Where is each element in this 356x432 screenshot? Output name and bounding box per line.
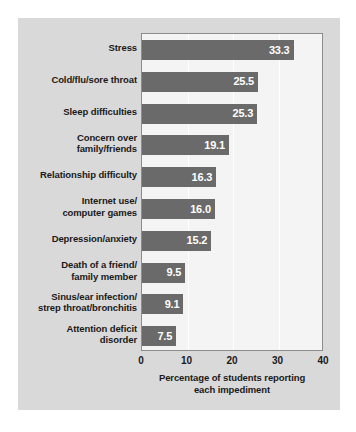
category-label-line: Attention deficit (18, 323, 137, 335)
category-label-line: computer games (18, 207, 137, 219)
category-label-line: disorder (18, 334, 137, 346)
bar[interactable]: 9.5 (142, 263, 185, 283)
category-label-line: Relationship difficulty (18, 169, 137, 181)
bar[interactable]: 33.3 (142, 40, 294, 60)
bar-value-label: 25.3 (233, 108, 258, 119)
bar-value-label: 33.3 (269, 45, 294, 56)
category-label: Attention deficitdisorder (18, 323, 137, 346)
category-label-line: family/friends (18, 143, 137, 155)
bar[interactable]: 15.2 (142, 231, 211, 251)
x-tick-label: 40 (317, 355, 328, 366)
bar[interactable]: 9.1 (142, 294, 183, 314)
bar-row: 15.2 (142, 225, 322, 257)
category-axis-labels: StressCold/flu/sore throatSleep difficul… (18, 33, 137, 351)
category-label-line: Death of a friend/ (18, 259, 137, 271)
category-label: Stress (18, 42, 137, 54)
bar-row: 25.3 (142, 98, 322, 130)
bar[interactable]: 25.3 (142, 104, 257, 124)
category-label-line: Depression/anxiety (18, 233, 137, 245)
bar[interactable]: 16.3 (142, 167, 216, 187)
category-label: Depression/anxiety (18, 233, 137, 245)
category-label: Sleep difficulties (18, 106, 137, 118)
category-label-line: Cold/flu/sore throat (18, 74, 137, 86)
x-tick-label: 0 (138, 355, 144, 366)
bar-row: 16.0 (142, 193, 322, 225)
bar-row: 19.1 (142, 129, 322, 161)
bar[interactable]: 7.5 (142, 326, 176, 346)
x-tick-label: 20 (226, 355, 237, 366)
bar-row: 16.3 (142, 161, 322, 193)
category-label: Internet use/computer games (18, 195, 137, 218)
category-label-line: Internet use/ (18, 195, 137, 207)
category-label: Cold/flu/sore throat (18, 74, 137, 86)
bar-row: 9.5 (142, 257, 322, 289)
chart-plot-area: 33.325.525.319.116.316.015.29.59.17.5 (141, 33, 323, 351)
x-axis-title: Percentage of students reportingeach imp… (141, 372, 323, 396)
figure-card: StressCold/flu/sore throatSleep difficul… (18, 18, 340, 410)
bar-value-label: 16.0 (190, 204, 215, 215)
category-label: Death of a friend/family member (18, 259, 137, 282)
bar-value-label: 9.1 (165, 299, 184, 310)
category-label-line: Sleep difficulties (18, 106, 137, 118)
category-label-line: Concern over (18, 132, 137, 144)
bar-value-label: 25.5 (233, 76, 258, 87)
category-label-line: strep throat/bronchitis (18, 302, 137, 314)
category-label-line: Sinus/ear infection/ (18, 291, 137, 303)
category-label-line: Stress (18, 42, 137, 54)
bar-value-label: 7.5 (157, 331, 176, 342)
bar-row: 9.1 (142, 288, 322, 320)
bar-value-label: 15.2 (187, 235, 212, 246)
bar-row: 33.3 (142, 34, 322, 66)
bar[interactable]: 25.5 (142, 72, 258, 92)
bar-row: 25.5 (142, 66, 322, 98)
bar[interactable]: 19.1 (142, 135, 229, 155)
bar-value-label: 16.3 (192, 172, 217, 183)
x-axis-title-line: Percentage of students reporting (141, 372, 323, 384)
x-axis-ticks: 010203040 (141, 351, 323, 371)
category-label-line: family member (18, 271, 137, 283)
bar-value-label: 9.5 (167, 267, 186, 278)
x-tick-label: 30 (272, 355, 283, 366)
bar-row: 7.5 (142, 320, 322, 352)
bar-value-label: 19.1 (204, 140, 229, 151)
category-label: Sinus/ear infection/strep throat/bronchi… (18, 291, 137, 314)
category-label: Relationship difficulty (18, 169, 137, 181)
bar[interactable]: 16.0 (142, 199, 215, 219)
category-label: Concern overfamily/friends (18, 132, 137, 155)
x-axis-title-line: each impediment (141, 384, 323, 396)
x-tick-label: 10 (181, 355, 192, 366)
